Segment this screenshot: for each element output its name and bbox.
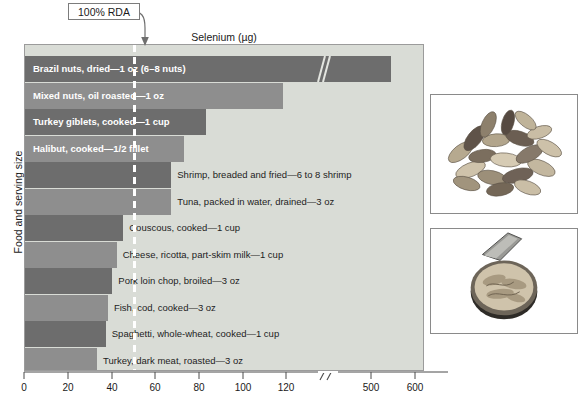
plot-area: Brazil nuts, dried—1 oz (6–8 nuts)Mixed … (24, 44, 424, 371)
x-tick-label: 60 (135, 382, 175, 393)
x-tick-label: 0 (4, 382, 44, 393)
bar-label: Couscous, cooked—1 cup (129, 215, 240, 241)
bars-layer: Brazil nuts, dried—1 oz (6–8 nuts)Mixed … (25, 45, 423, 370)
bar-label: Spaghetti, whole-wheat, cooked—1 cup (112, 321, 279, 347)
bar-label: Cheese, ricotta, part-skim milk—1 cup (123, 242, 284, 268)
bar[interactable] (25, 348, 97, 372)
bar-label: Pork loin chop, broiled—3 oz (118, 268, 239, 294)
x-tick-label: 100 (223, 382, 263, 393)
x-tick-label: 40 (92, 382, 132, 393)
brazil-nuts-illustration (431, 95, 577, 213)
x-tick-label: 120 (266, 382, 306, 393)
rda-callout-label: 100% RDA (68, 3, 140, 20)
bar[interactable] (25, 189, 171, 215)
y-axis-title: Food and serving size (12, 132, 24, 272)
bar-label: Fish, cod, cooked—3 oz (114, 295, 216, 321)
bar-label: Halibut, cooked—1/2 fillet (33, 136, 149, 162)
bar-label: Turkey giblets, cooked—1 cup (33, 109, 170, 135)
bar[interactable] (25, 295, 108, 321)
bar[interactable] (25, 321, 106, 347)
bar[interactable] (25, 162, 171, 188)
x-axis (0, 371, 585, 420)
x-axis-title: Selenium (µg) (0, 31, 448, 43)
tuna-can-illustration (431, 229, 577, 333)
bar-label: Mixed nuts, oil roasted—1 oz (33, 83, 164, 109)
x-tick-label: 20 (48, 382, 88, 393)
bar-label: Brazil nuts, dried—1 oz (6–8 nuts) (33, 56, 186, 82)
tuna-can-photo (430, 228, 578, 334)
x-tick-label: 500 (351, 382, 391, 393)
bar[interactable] (25, 242, 117, 268)
x-tick-label: 80 (179, 382, 219, 393)
bar-label: Shrimp, breaded and fried—6 to 8 shrimp (177, 162, 351, 188)
selenium-bar-chart-figure: 100% RDA Brazil nuts, dried—1 oz (6–8 nu… (0, 0, 585, 420)
rda-reference-line (133, 45, 136, 370)
bar-label: Tuna, packed in water, drained—3 oz (177, 189, 334, 215)
bar-label: Turkey, dark meat, roasted—3 oz (103, 348, 243, 372)
brazil-nuts-photo (430, 94, 578, 214)
bar[interactable] (25, 215, 123, 241)
bar[interactable] (25, 268, 112, 294)
x-tick-label: 600 (395, 382, 435, 393)
